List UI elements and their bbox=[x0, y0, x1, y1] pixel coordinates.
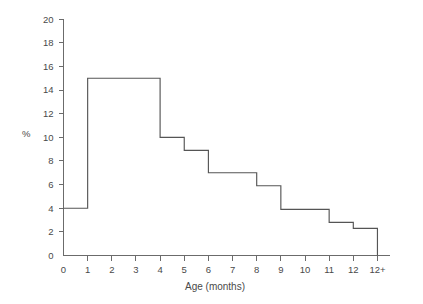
x-tick-label: 9 bbox=[278, 264, 283, 275]
x-tick-label: 5 bbox=[182, 264, 187, 275]
y-tick-label: 20 bbox=[43, 14, 54, 25]
x-tick-label: 12+ bbox=[369, 264, 386, 275]
y-tick-label: 10 bbox=[43, 132, 54, 143]
x-axis-title: Age (months) bbox=[185, 281, 245, 292]
y-tick-label: 4 bbox=[48, 203, 53, 214]
x-tick-label: 1 bbox=[85, 264, 90, 275]
x-tick-label: 4 bbox=[157, 264, 162, 275]
y-tick-label: 8 bbox=[48, 155, 53, 166]
y-tick-label: 2 bbox=[48, 226, 53, 237]
y-tick-label: 16 bbox=[43, 61, 54, 72]
data-series-step-outline bbox=[64, 78, 378, 255]
y-axis-title: % bbox=[22, 128, 31, 139]
histogram-chart: 02468101214161820 012345678910111212+ % … bbox=[0, 0, 423, 304]
y-tick-label: 0 bbox=[48, 250, 53, 261]
x-tick-label: 7 bbox=[230, 264, 235, 275]
y-tick-label: 12 bbox=[43, 108, 54, 119]
x-tick-label: 0 bbox=[61, 264, 66, 275]
x-tick-label: 11 bbox=[324, 264, 334, 275]
y-tick-label: 6 bbox=[48, 179, 53, 190]
x-tick-label: 10 bbox=[300, 264, 311, 275]
x-tick-label: 8 bbox=[254, 264, 259, 275]
y-tick-label: 14 bbox=[43, 84, 54, 95]
chart-container: 02468101214161820 012345678910111212+ % … bbox=[0, 0, 423, 304]
x-tick-label: 12 bbox=[348, 264, 359, 275]
x-tick-label: 6 bbox=[206, 264, 211, 275]
x-tick-label: 2 bbox=[109, 264, 114, 275]
y-axis: 02468101214161820 bbox=[43, 14, 64, 261]
x-axis: 012345678910111212+ bbox=[61, 256, 391, 275]
y-tick-label: 18 bbox=[43, 37, 54, 48]
x-tick-label: 3 bbox=[133, 264, 138, 275]
step-outline-path bbox=[64, 78, 378, 255]
